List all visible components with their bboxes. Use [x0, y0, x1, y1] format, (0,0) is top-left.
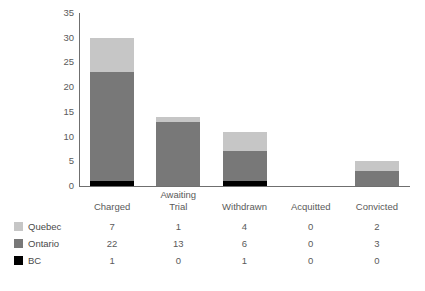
bar-column-awaiting-trial[interactable]	[156, 117, 200, 186]
bar-segment-bc[interactable]	[223, 181, 267, 186]
bar-segment-ontario[interactable]	[156, 122, 200, 186]
bar-segment-quebec[interactable]	[223, 132, 267, 152]
table-cell: 2	[334, 219, 420, 235]
bar-segment-ontario[interactable]	[223, 151, 267, 181]
bar-segment-ontario[interactable]	[355, 171, 399, 186]
y-tick-label: 5	[44, 156, 74, 166]
stacked-bar-chart: 35302520151050 ChargedAwaitingTrialWithd…	[0, 0, 425, 291]
bar-segment-quebec[interactable]	[90, 38, 134, 73]
plot-area	[79, 13, 410, 186]
legend-row-bc[interactable]: BC10100	[0, 253, 425, 269]
legend-swatch-bc	[14, 256, 23, 265]
y-tick-label: 10	[44, 132, 74, 142]
x-axis-category-labels: ChargedAwaitingTrialWithdrawnAcquittedCo…	[79, 189, 410, 217]
bar-column-withdrawn[interactable]	[223, 132, 267, 186]
y-tick-label: 15	[44, 107, 74, 117]
bar-segment-ontario[interactable]	[90, 72, 134, 181]
x-category-label-convicted: Convicted	[334, 189, 420, 212]
y-axis-tick-labels: 35302520151050	[41, 13, 74, 186]
table-cell: 3	[334, 236, 420, 252]
bar-segment-quebec[interactable]	[355, 161, 399, 171]
bar-segment-bc[interactable]	[90, 181, 134, 186]
legend-row-quebec[interactable]: Quebec71402	[0, 219, 425, 235]
legend-swatch-ontario	[14, 239, 23, 248]
category-label-line2: Convicted	[334, 201, 420, 213]
bar-column-charged[interactable]	[90, 38, 134, 186]
legend-label-quebec: Quebec	[28, 219, 61, 235]
y-tick-label: 30	[44, 33, 74, 43]
bar-column-convicted[interactable]	[355, 161, 399, 186]
y-tick-label: 20	[44, 82, 74, 92]
y-tick-label: 25	[44, 57, 74, 67]
legend-swatch-quebec	[14, 222, 23, 231]
legend-row-ontario[interactable]: Ontario2213603	[0, 236, 425, 252]
legend-data-table: Quebec71402Ontario2213603BC10100	[0, 219, 425, 271]
x-axis-line	[79, 186, 410, 187]
legend-label-bc: BC	[28, 253, 41, 269]
y-tick-label: 35	[44, 8, 74, 18]
table-cell: 0	[334, 253, 420, 269]
legend-label-ontario: Ontario	[28, 236, 59, 252]
